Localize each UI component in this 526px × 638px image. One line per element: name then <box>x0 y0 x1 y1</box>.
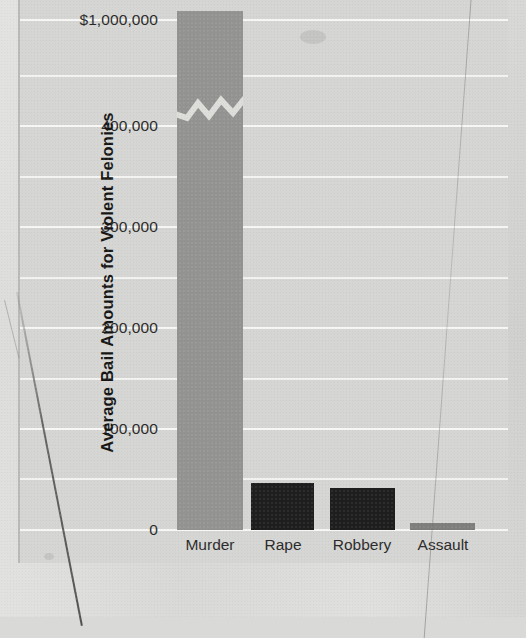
axis-break-zigzag-icon <box>177 92 243 122</box>
bar-rape <box>251 483 314 530</box>
bar-robbery <box>330 488 395 530</box>
x-tick-label-robbery: Robbery <box>322 536 402 554</box>
x-tick-label-rape: Rape <box>248 536 318 554</box>
bar-murder <box>177 11 243 530</box>
bar-assault <box>410 523 475 530</box>
x-tick-label-assault: Assault <box>405 536 481 554</box>
x-tick-label-murder: Murder <box>170 536 250 554</box>
bar-series <box>0 0 526 530</box>
